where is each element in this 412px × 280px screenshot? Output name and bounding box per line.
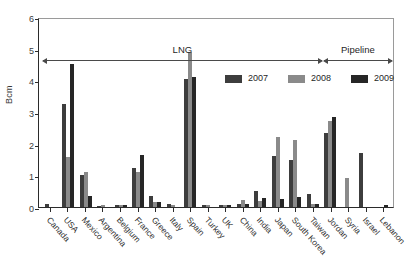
bar <box>245 204 249 207</box>
x-tick-label-cell: France <box>129 212 147 278</box>
bar-group <box>234 19 251 207</box>
bar <box>280 199 284 207</box>
chart-figure: Bcm 0123456 LNG Pipeline 200720082009 Ca… <box>0 0 412 280</box>
lng-range-label: LNG <box>173 45 193 55</box>
bar-group <box>42 19 59 207</box>
legend-swatch <box>351 75 368 83</box>
x-tick-label-cell: UK <box>216 212 234 278</box>
x-tick-label-cell: Mexico <box>76 212 94 278</box>
x-tick-label-cell: Turkey <box>199 212 217 278</box>
bar <box>157 202 161 207</box>
plot-area: 0123456 LNG Pipeline <box>38 18 394 208</box>
x-tick-label-cell: Argentina <box>94 212 112 278</box>
x-tick-label-cell: Israel <box>357 212 375 278</box>
x-tick-label-cell: Italy <box>164 212 182 278</box>
bar-series-container <box>39 19 393 207</box>
y-axis-label: Bcm <box>4 85 14 104</box>
bar-group <box>147 19 164 207</box>
legend-swatch <box>288 75 305 83</box>
bar-group <box>129 19 146 207</box>
bar-group <box>112 19 129 207</box>
x-tick-label-cell: Taiwan <box>304 212 322 278</box>
bar-group <box>77 19 94 207</box>
bar <box>171 205 175 207</box>
pipeline-range-label: Pipeline <box>341 45 375 55</box>
bar <box>140 155 144 207</box>
x-tick-label-cell: USA <box>59 212 77 278</box>
bar <box>359 153 363 207</box>
legend-label: 2009 <box>374 74 394 83</box>
x-tick-label: UK <box>220 215 234 229</box>
bar <box>315 204 319 207</box>
bar-group <box>286 19 303 207</box>
x-tick-label-cell: India <box>252 212 270 278</box>
legend-label: 2007 <box>248 74 268 83</box>
x-tick-label-cell: China <box>234 212 252 278</box>
bar <box>45 204 49 207</box>
bar-group <box>199 19 216 207</box>
lng-range-arrow <box>43 60 322 61</box>
bar <box>88 196 92 207</box>
bar <box>70 64 74 207</box>
bar-group <box>269 19 286 207</box>
bar-group <box>94 19 111 207</box>
x-tick-label-cell: Belgium <box>111 212 129 278</box>
bar-group <box>251 19 268 207</box>
bar <box>206 205 210 207</box>
bar-group <box>304 19 321 207</box>
x-tick-label-cell: Lebanon <box>374 212 392 278</box>
bar <box>297 197 301 207</box>
x-tick-label-cell: Jordan <box>322 212 340 278</box>
bar <box>276 137 280 207</box>
bar <box>332 117 336 207</box>
bar-group <box>59 19 76 207</box>
bar <box>345 178 349 207</box>
legend-item: 2009 <box>351 74 394 83</box>
x-tick-label-cell: Japan <box>269 212 287 278</box>
bar-group <box>217 19 234 207</box>
pipeline-range-arrow <box>324 60 392 61</box>
x-axis-labels: CanadaUSAMexicoArgentinaBelgiumFranceGre… <box>38 212 394 278</box>
chart-legend: 200720082009 <box>225 74 412 83</box>
legend-item: 2007 <box>225 74 268 83</box>
bar-group <box>321 19 338 207</box>
bar <box>227 205 231 207</box>
x-tick-label-cell: Greece <box>146 212 164 278</box>
x-tick-label-cell: South Korea <box>287 212 305 278</box>
x-tick-label: Lebanon <box>378 215 406 245</box>
legend-item: 2008 <box>288 74 331 83</box>
legend-label: 2008 <box>311 74 331 83</box>
x-tick-label-cell: Syria <box>339 212 357 278</box>
bar <box>384 205 388 207</box>
bar-group <box>374 19 391 207</box>
bar <box>123 205 127 207</box>
bar <box>101 205 105 207</box>
bar <box>192 77 196 207</box>
x-tick-label-cell: Spain <box>181 212 199 278</box>
legend-swatch <box>225 75 242 83</box>
x-tick-label-cell: Canada <box>41 212 59 278</box>
bar <box>262 198 266 207</box>
